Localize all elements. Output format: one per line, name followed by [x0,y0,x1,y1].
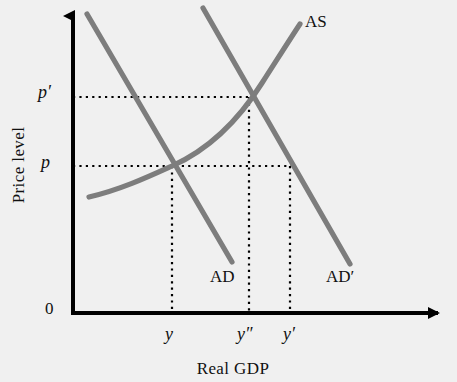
x-tick-label-y: y [165,324,173,345]
as-curve-label: AS [305,12,327,32]
plot-canvas [0,0,457,382]
origin-label: 0 [45,299,54,319]
x-tick-label-y-double-prime: y″ [237,324,253,345]
ad-prime-curve-label: AD′ [326,267,354,287]
y-axis-title: Price level [9,115,29,215]
as-ad-figure: Price level Real GDP 0 p′ p y y″ y′ AS A… [0,0,457,382]
y-tick-label-p-prime: p′ [38,82,51,103]
x-axis-title: Real GDP [148,359,318,379]
ad-curve-label: AD [210,267,235,287]
y-tick-label-p: p [41,152,50,173]
x-tick-label-y-prime: y′ [283,324,295,345]
